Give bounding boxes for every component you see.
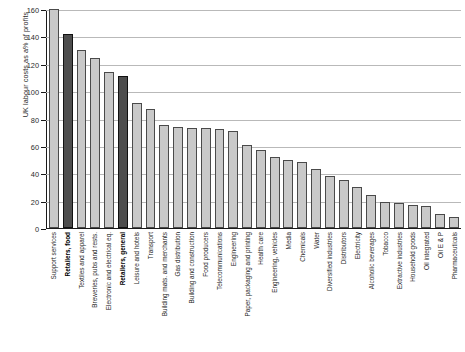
y-axis-tick-label: 0 <box>35 225 39 234</box>
x-axis-category-label: Gas distribution <box>175 232 181 276</box>
y-axis-tick <box>41 229 46 230</box>
category-slot: Tobacco <box>379 232 393 350</box>
bar-slot <box>254 10 268 228</box>
x-axis-category-label: Building and construction <box>189 232 195 303</box>
bar-slot <box>75 10 89 228</box>
category-slot: Oil E & P <box>434 232 448 350</box>
y-axis-tick <box>41 65 46 66</box>
x-axis-line <box>46 228 461 229</box>
x-axis-category-label: Diversified industries <box>327 232 333 291</box>
x-axis-category-label: Electricity <box>355 232 361 259</box>
bar-slot <box>130 10 144 228</box>
bar <box>146 109 156 228</box>
bar-slot <box>116 10 130 228</box>
y-axis-tick-label: 100 <box>27 88 39 97</box>
bar-slot <box>199 10 213 228</box>
bar <box>380 202 390 228</box>
category-slot: Retailers, food <box>61 232 75 350</box>
bar-slot <box>447 10 461 228</box>
bar-slot <box>171 10 185 228</box>
x-axis-category-label: Media <box>286 232 292 249</box>
bar <box>63 34 73 228</box>
x-axis-category-label: Retailers, food <box>65 232 71 276</box>
x-axis-category-label: Distributors <box>341 232 347 264</box>
bar <box>339 180 349 228</box>
y-axis-tick-label: 160 <box>27 6 39 15</box>
bar <box>132 103 142 228</box>
x-axis-category-label: Extractive industries <box>396 232 402 289</box>
bar <box>408 205 418 228</box>
y-axis-tick-label: 140 <box>27 33 39 42</box>
x-axis-category-label: Leisure and hotels <box>134 232 140 284</box>
y-axis-tick <box>41 92 46 93</box>
x-axis-category-label: Household goods <box>410 232 416 282</box>
bar <box>449 217 459 228</box>
bar <box>104 72 114 228</box>
x-axis-category-label: Telecommunications <box>217 232 223 290</box>
x-axis-category-label: Breweries, pubs and rests. <box>92 232 98 308</box>
x-axis-category-label: Support services <box>51 232 57 280</box>
category-slot: Water <box>310 232 324 350</box>
bar-slot <box>392 10 406 228</box>
bar <box>201 128 211 228</box>
bar <box>242 145 252 228</box>
category-slot: Pharmaceuticals <box>448 232 462 350</box>
bar-slot <box>47 10 61 228</box>
category-slot: Diversified industries <box>324 232 338 350</box>
bar-slot <box>88 10 102 228</box>
y-axis-tick-label: 40 <box>31 170 39 179</box>
category-slot: Household goods <box>407 232 421 350</box>
category-slot: Health care <box>254 232 268 350</box>
y-axis-tick <box>41 120 46 121</box>
x-axis-category-label: Pharmaceuticals <box>452 232 458 279</box>
bar <box>366 195 376 228</box>
bar <box>173 127 183 228</box>
bar-slot <box>364 10 378 228</box>
x-axis-category-label: Engineering <box>230 232 236 266</box>
bar <box>77 50 87 228</box>
x-axis-category-label: Tobacco <box>383 232 389 256</box>
bar <box>421 206 431 228</box>
bar-slot <box>268 10 282 228</box>
bar <box>228 131 238 228</box>
x-axis-category-label: Paper, packaging and printing <box>244 232 250 317</box>
bar-slot <box>433 10 447 228</box>
category-slot: Building mats. and merchants <box>158 232 172 350</box>
y-axis-tick <box>41 174 46 175</box>
bar-slot <box>309 10 323 228</box>
category-slot: Telecommunications <box>213 232 227 350</box>
bar-slot <box>185 10 199 228</box>
bar <box>435 214 445 228</box>
bar <box>118 76 128 228</box>
bar-slot <box>226 10 240 228</box>
y-axis-tick-label: 120 <box>27 60 39 69</box>
bar <box>297 162 307 228</box>
x-axis-category-label: Water <box>313 232 319 249</box>
y-axis-tick <box>41 37 46 38</box>
y-axis-label: UK labour costs as a% of profits <box>21 0 30 150</box>
bar <box>215 129 225 228</box>
category-slot: Textiles and apparel <box>75 232 89 350</box>
category-slot: Electricity <box>351 232 365 350</box>
bar-slot <box>378 10 392 228</box>
y-axis-tick-label: 20 <box>31 197 39 206</box>
bar <box>270 157 280 228</box>
x-axis-category-label: Oil integrated <box>424 232 430 270</box>
bar-slot <box>406 10 420 228</box>
x-axis-category-label: Building mats. and merchants <box>161 232 167 316</box>
bar-slot <box>144 10 158 228</box>
bar <box>256 150 266 228</box>
x-axis-category-label: Transport <box>148 232 154 259</box>
bar <box>90 58 100 228</box>
bar-slot <box>157 10 171 228</box>
category-slot: Engineering <box>227 232 241 350</box>
category-slot: Food producers <box>199 232 213 350</box>
bar <box>49 9 59 228</box>
bar-slot <box>337 10 351 228</box>
bar <box>187 128 197 228</box>
y-axis-tick <box>41 10 46 11</box>
x-axis-category-label: Textiles and apparel <box>78 232 84 289</box>
x-axis-category-label: Chemicals <box>300 232 306 262</box>
bar-series <box>47 10 461 228</box>
bar-chart: UK labour costs as a% of profits 0204060… <box>0 0 465 352</box>
